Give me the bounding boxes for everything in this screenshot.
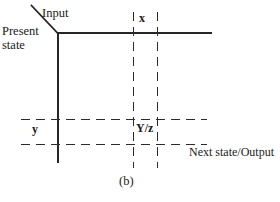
state-variable-label: y <box>32 123 38 136</box>
present-state-label-line1: Present <box>2 24 39 38</box>
row-guide-top <box>21 119 207 120</box>
input-label: Input <box>42 6 68 20</box>
present-state-label: Present state <box>2 24 39 52</box>
input-variable-label: x <box>139 12 145 25</box>
next-state-output-variable-label: Y/z <box>136 122 153 135</box>
present-state-label-line2: state <box>2 38 39 52</box>
row-guide-bottom <box>21 144 207 145</box>
next-state-output-label: Next state/Output <box>189 146 274 159</box>
state-table-figure: Present state Input x y Y/z Next state/O… <box>0 0 280 202</box>
figure-caption: (b) <box>119 174 134 188</box>
header-horizontal-rule <box>57 32 212 34</box>
